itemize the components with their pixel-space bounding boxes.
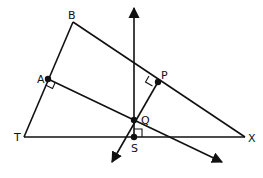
label-B: B [68,9,76,22]
label-X: X [248,132,256,145]
label-S: S [131,142,138,155]
label-T: T [13,131,21,144]
point-A [45,76,51,82]
point-S [131,134,137,140]
geometry-diagram: B A T X P Q S [0,0,263,178]
point-Q [131,117,137,123]
right-angle-marker-P [146,76,153,86]
label-P: P [161,69,168,82]
label-A: A [37,73,45,86]
label-Q: Q [141,114,150,127]
